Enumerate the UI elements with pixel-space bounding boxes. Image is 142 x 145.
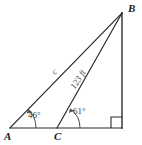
angle-label-A: 46° (28, 111, 41, 120)
right-angle-marker (111, 117, 122, 128)
triangle-diagram: A B C 46° 61° c 123 ft (0, 0, 142, 145)
vertex-label-A: A (4, 131, 11, 142)
vertex-label-C: C (54, 131, 61, 142)
diagram-canvas (0, 0, 142, 145)
segment-AB (10, 13, 122, 128)
vertex-label-B: B (128, 3, 135, 14)
angle-label-C: 61° (73, 107, 86, 116)
